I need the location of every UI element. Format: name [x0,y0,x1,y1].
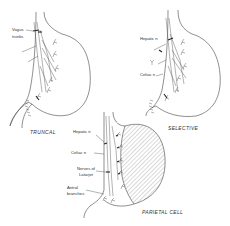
truncal-panel: Vagus trunks TRUNCAL [10,12,90,135]
caption-parietal-cell: PARIETAL CELL [142,209,183,215]
label-branches: branches [67,191,84,196]
label-vagus: Vagus [12,27,24,32]
label-celiac-selective: Celiac n [140,72,156,77]
parietal-cell-panel: Hepatic n Celiac n Nerves of Latarjet An… [67,112,183,218]
vagotomy-diagram: Vagus trunks TRUNCAL [0,0,230,226]
label-nerves-of: Nerves of [77,166,96,171]
parietal-stomach-outline [113,112,125,126]
label-antral: Antral [67,185,78,190]
label-trunks: trunks [12,34,23,39]
label-hepatic-selective: Hepatic n [140,36,158,41]
truncal-stomach-outline [28,12,90,116]
selective-nerves [149,18,187,113]
label-latarjet: Latarjet [79,172,94,177]
caption-truncal: TRUNCAL [30,129,56,135]
parietal-hatched-region [121,124,165,204]
selective-panel: Hepatic n Celiac n SELECTIVE [140,10,220,131]
caption-selective: SELECTIVE [168,125,199,131]
truncal-nerves [22,22,59,116]
label-celiac-parietal: Celiac n [71,150,87,155]
label-hepatic-parietal: Hepatic n [73,129,91,134]
